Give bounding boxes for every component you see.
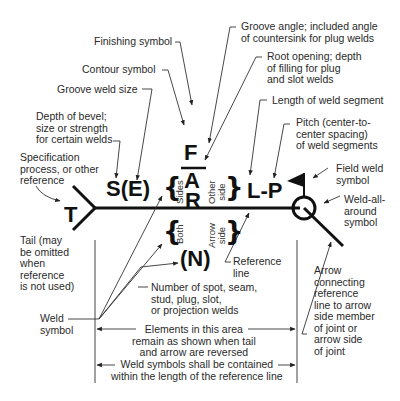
depth-of-bevel-label: Depth of bevel; size or strength for cer… <box>36 111 112 146</box>
specification-label: Specification process, or other referenc… <box>20 152 99 187</box>
finishing-symbol-label: Finishing symbol <box>94 36 172 48</box>
groove-weld-size-label: Groove weld size <box>57 84 138 96</box>
brace-arrow-side-right: } <box>225 218 244 244</box>
reference-line-label: Reference line <box>233 256 281 279</box>
groove-angle-label: Groove angle; included angle of counters… <box>241 21 378 44</box>
length-of-segment-label: Length of weld segment <box>272 95 384 107</box>
arrow-line <box>304 208 343 246</box>
size-text: S(E) <box>106 176 150 202</box>
pitch-label: Pitch (center-to- center spacing) of wel… <box>296 117 378 152</box>
field-weld-label: Field weld symbol <box>336 163 383 186</box>
both-label: Both <box>175 224 185 244</box>
sides-label: Sides <box>175 180 185 204</box>
arrow-connecting-label: Arrow connecting reference line to arrow… <box>314 265 375 357</box>
root-opening-label: Root opening; depth of filling for plug … <box>267 51 362 86</box>
other-side-label: Other side <box>207 180 227 204</box>
length-pitch-text: L-P <box>247 178 282 204</box>
tail-letter: T <box>64 202 77 228</box>
tail-label: Tail (may be omitted when reference is n… <box>20 235 74 293</box>
number-of-welds-label: Number of spot, seam, stud, plug, slot, … <box>151 282 257 317</box>
root-letter: R <box>185 188 201 214</box>
number-text: (N) <box>180 246 211 272</box>
arrow-side-label: Arrow side <box>207 223 227 248</box>
weld-symbol-label: Weld symbol <box>40 313 73 336</box>
brace-other-side-right: } <box>225 174 244 200</box>
contained-label: Weld symbols shall be contained within t… <box>111 359 283 382</box>
elements-area-label: Elements in this area remain as shown wh… <box>132 324 256 359</box>
weld-all-around-label: Weld-all- around symbol <box>344 194 385 229</box>
contour-symbol-label: Contour symbol <box>82 64 156 76</box>
field-weld-flag <box>287 173 304 187</box>
finishing-letter: F <box>184 140 197 166</box>
